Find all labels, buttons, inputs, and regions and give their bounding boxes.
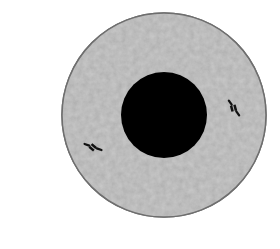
nucleus: [121, 72, 207, 158]
diagram-canvas: [0, 0, 280, 249]
cell-diagram: [0, 0, 280, 249]
